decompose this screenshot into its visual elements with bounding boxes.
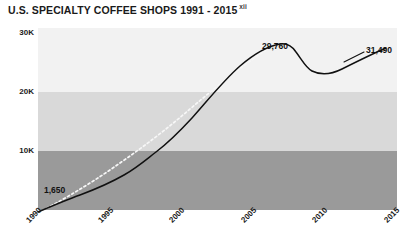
- x-tick-2005: 2005: [240, 206, 258, 224]
- x-tick-2015: 2015: [383, 206, 401, 224]
- x-tick-1990: 1990: [25, 206, 43, 224]
- coffee-shops-chart: U.S. SPECIALTY COFFEE SHOPS 1991 - 2015x…: [0, 0, 412, 250]
- x-tick-2000: 2000: [168, 206, 186, 224]
- x-axis: 1990 1995 2000 2005 2010 2015: [0, 0, 412, 250]
- x-tick-1995: 1995: [97, 206, 115, 224]
- annotation-start-value: 1,650: [44, 186, 65, 195]
- annotation-end-value: 31,490: [366, 46, 392, 55]
- annotation-peak-value: 29,760: [262, 42, 288, 51]
- x-tick-2010: 2010: [311, 206, 329, 224]
